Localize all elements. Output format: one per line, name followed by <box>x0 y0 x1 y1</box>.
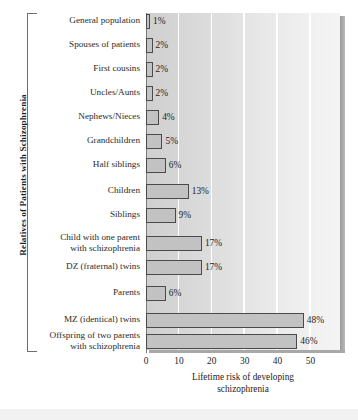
bar-value-label: 48% <box>307 315 324 325</box>
category-label: Siblings <box>110 209 140 220</box>
category-label: Child with one parent with schizophrenia <box>60 232 140 253</box>
bar-value-label: 17% <box>205 262 222 272</box>
bar <box>146 14 150 29</box>
bar-value-label: 2% <box>156 88 169 98</box>
bar <box>146 334 297 349</box>
category-label: Grandchildren <box>87 135 140 146</box>
bar <box>146 236 202 251</box>
bar <box>146 208 176 223</box>
gridline <box>211 13 213 350</box>
gridline <box>276 13 278 350</box>
category-label: Spouses of patients <box>69 39 140 50</box>
category-label: Parents <box>113 287 140 298</box>
bar <box>146 38 153 53</box>
bottom-band <box>0 409 358 420</box>
category-label: First cousins <box>93 63 140 74</box>
gridline <box>178 13 180 350</box>
schizophrenia-risk-bar-chart: Relatives of Patients with Schizophrenia… <box>0 0 358 420</box>
bar-value-label: 4% <box>162 112 175 122</box>
bar <box>146 134 162 149</box>
gridline <box>309 13 311 350</box>
bar <box>146 86 153 101</box>
bar-value-label: 2% <box>156 64 169 74</box>
bar <box>146 110 159 125</box>
plot-shadow-right <box>340 16 345 353</box>
bar <box>146 313 304 328</box>
x-tick-label: 40 <box>267 356 289 366</box>
bar-value-label: 6% <box>169 288 182 298</box>
category-bracket <box>27 13 37 352</box>
category-label: Uncles/Aunts <box>90 87 140 98</box>
x-tick-label: 0 <box>135 356 157 366</box>
bar <box>146 286 166 301</box>
category-label: Offspring of two parents with schizophre… <box>50 330 140 351</box>
bar-value-label: 5% <box>165 136 178 146</box>
bar-value-label: 9% <box>179 210 192 220</box>
bar-value-label: 6% <box>169 160 182 170</box>
plot-shadow-bottom <box>149 350 345 353</box>
category-label: Nephews/Nieces <box>78 111 140 122</box>
bar-value-label: 46% <box>300 336 317 346</box>
bar-value-label: 13% <box>192 186 209 196</box>
x-axis-title: Lifetime risk of developing schizophreni… <box>146 372 340 395</box>
bar <box>146 260 202 275</box>
category-label: General population <box>69 15 140 26</box>
plot-area <box>146 13 340 350</box>
x-tick-label: 10 <box>168 356 190 366</box>
category-label: DZ (fraternal) twins <box>66 261 140 272</box>
bar-value-label: 1% <box>153 16 166 26</box>
category-label: Half siblings <box>93 159 140 170</box>
x-tick-label: 50 <box>299 356 321 366</box>
category-label: MZ (identical) twins <box>64 314 140 325</box>
x-tick-label: 20 <box>201 356 223 366</box>
x-tick-label: 30 <box>234 356 256 366</box>
bar <box>146 184 189 199</box>
gridline <box>243 13 245 350</box>
category-label: Children <box>108 185 140 196</box>
bar-value-label: 17% <box>205 238 222 248</box>
bar-value-label: 2% <box>156 40 169 50</box>
bar <box>146 62 153 77</box>
bar <box>146 158 166 173</box>
